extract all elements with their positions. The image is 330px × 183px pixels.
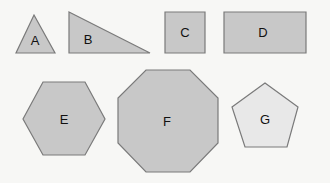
shape-label: F <box>163 114 171 129</box>
shape-label: A <box>31 33 40 48</box>
right-triangle-shape <box>69 12 150 53</box>
shape-g: G <box>232 83 298 147</box>
shape-label: D <box>258 25 267 40</box>
shape-c: C <box>165 12 205 53</box>
shape-f: F <box>118 70 218 172</box>
shape-label: G <box>260 112 270 127</box>
shape-b: B <box>69 12 150 53</box>
shape-d: D <box>224 12 306 53</box>
shape-label: E <box>60 112 69 127</box>
shapes-diagram: A B C D E F G <box>0 0 330 183</box>
shape-label: B <box>84 32 93 47</box>
shapes-svg: A B C D E F G <box>0 0 330 183</box>
shape-label: C <box>180 25 189 40</box>
shape-a: A <box>16 15 55 53</box>
shape-e: E <box>23 82 105 155</box>
